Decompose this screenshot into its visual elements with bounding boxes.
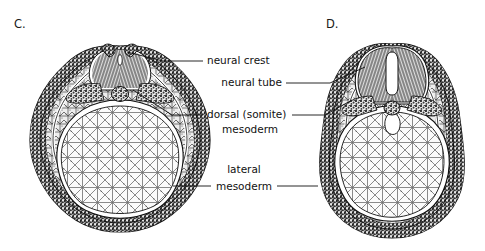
panel-letter-C: C. xyxy=(14,17,26,31)
label-lateral-mesoderm-line1: lateral xyxy=(227,163,261,175)
panel-D-neural-lumen xyxy=(386,52,398,95)
panel-letter-D: D. xyxy=(326,17,339,31)
panel-C-neural-lumen xyxy=(118,55,122,66)
figure-canvas: C. D. neural crest neural tube dorsal (s… xyxy=(0,0,485,251)
label-dorsal-somite-mesoderm-line1: dorsal (somite) xyxy=(207,108,286,120)
panel-D-notochord xyxy=(384,101,400,115)
label-lateral-mesoderm-line2: mesoderm xyxy=(216,180,272,192)
label-neural-crest: neural crest xyxy=(207,54,270,66)
label-neural-tube: neural tube xyxy=(221,76,282,88)
label-dorsal-somite-mesoderm-line2: mesoderm xyxy=(222,123,278,135)
embryo-cross-section-figure: C. D. neural crest neural tube dorsal (s… xyxy=(0,0,485,251)
panel-C-notochord xyxy=(112,87,129,102)
